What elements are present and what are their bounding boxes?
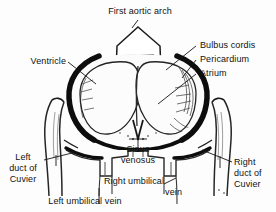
label-sinus-venosus-line1: Sinus [110, 144, 166, 155]
label-right-duct-of-cuvier-line3: Cuvier [234, 179, 276, 190]
label-left-duct-of-cuvier-line2: duct of [2, 163, 44, 174]
leader-first-aortic-arch [132, 20, 138, 28]
label-right-duct-of-cuvier-line2: duct of [234, 168, 276, 179]
label-sinus-venosus-line2: venosus [110, 155, 166, 166]
label-bulbus-cordis: Bulbus cordis [200, 40, 274, 51]
label-first-aortic-arch: First aortic arch [90, 6, 190, 17]
label-right-duct-of-cuvier-line1: Right [234, 157, 276, 168]
label-left-duct-of-cuvier-line3: Cuvier [2, 174, 44, 185]
label-right-umbilical-vein-line1: Right umbilical [104, 176, 182, 187]
label-left-duct-of-cuvier-line1: Left [2, 152, 44, 163]
label-ventricle: Ventricle [8, 56, 66, 67]
label-atrium: Atrium [200, 68, 274, 79]
leader-right-duct-of-cuvier [202, 150, 232, 162]
heart-mass [69, 54, 207, 150]
anatomical-figure: First aortic arch Ventricle Bulbus cordi… [0, 0, 276, 212]
label-left-umbilical-vein: Left umbilical vein [30, 196, 140, 207]
label-pericardium: Pericardium [200, 54, 274, 65]
